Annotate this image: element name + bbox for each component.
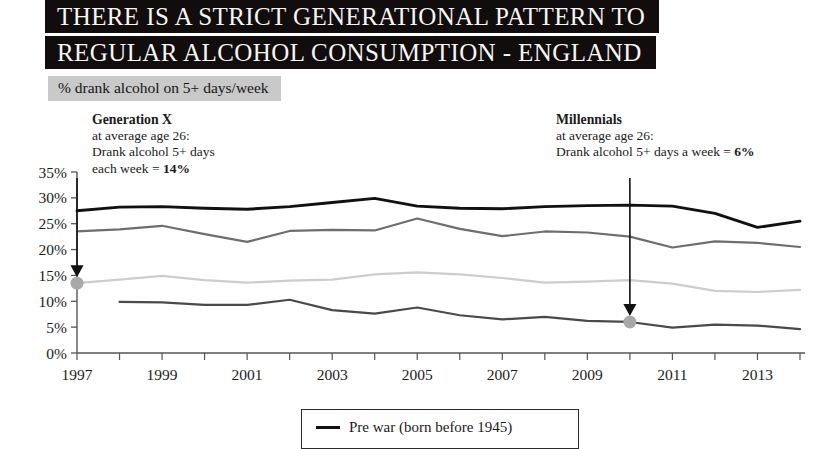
millennials-arrow-head (623, 304, 636, 316)
millennials-marker (623, 315, 636, 328)
legend-item-pre-war: Pre war (born before 1945) (316, 417, 578, 437)
x-tick-label: 2009 (572, 366, 603, 383)
y-tick-label: 15% (39, 267, 68, 284)
series-line (120, 300, 800, 329)
x-tick-label: 1997 (62, 366, 93, 383)
y-tick-label: 35% (39, 164, 68, 181)
legend-label-pre-war: Pre war (born before 1945) (349, 419, 512, 436)
x-tick-label: 2005 (402, 366, 433, 383)
y-tick-label: 30% (39, 189, 68, 206)
x-tick-label: 2003 (317, 366, 348, 383)
x-tick-label: 2013 (742, 366, 773, 383)
series-line (77, 272, 800, 292)
y-tick-label: 0% (46, 345, 67, 362)
series-line (77, 219, 800, 248)
x-tick-label: 2011 (657, 366, 687, 383)
chart-legend: Pre war (born before 1945) (301, 409, 579, 449)
y-tick-label: 5% (46, 319, 67, 336)
x-tick-label: 2001 (232, 366, 263, 383)
legend-swatch-pre-war (316, 426, 340, 429)
y-tick-label: 10% (39, 293, 68, 310)
generation-x-marker (71, 277, 84, 290)
y-tick-label: 20% (39, 241, 68, 258)
y-tick-label: 25% (39, 215, 68, 232)
x-tick-label: 2007 (487, 366, 518, 383)
x-tick-label: 1999 (147, 366, 178, 383)
